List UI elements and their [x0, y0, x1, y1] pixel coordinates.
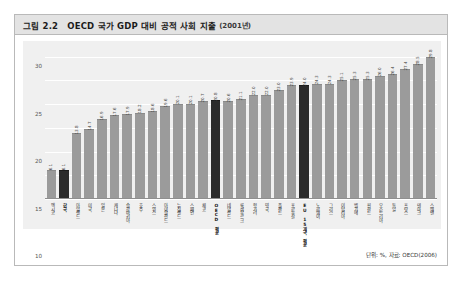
bar-value-label: 16.9	[100, 111, 104, 120]
x-label-column: 캐나다	[108, 203, 121, 227]
x-axis-category-label: EU 15개국 평균	[302, 203, 306, 246]
x-axis-labels: 멕시코한국아일랜드미국일본캐나다슬로바키아호주스위스아이슬란드뉴질랜드스페인체코…	[45, 203, 437, 227]
bar	[186, 104, 196, 199]
bar-value-label: 14.7	[87, 122, 91, 131]
bar-column: 14.7	[83, 47, 96, 199]
x-axis-category-label: 한국	[62, 203, 66, 210]
bar	[287, 85, 297, 199]
y-axis-tick: 15	[35, 206, 42, 212]
bar	[375, 76, 385, 200]
x-label-column: 룩셈부르크	[235, 203, 248, 227]
bar-value-label: 6.1	[49, 164, 53, 171]
bar	[413, 64, 423, 199]
bar-column: 17.6	[108, 47, 121, 199]
bar	[160, 106, 170, 199]
x-label-column: 폴란드	[273, 203, 286, 227]
bar	[350, 79, 360, 199]
x-label-column: 노르웨이	[310, 203, 323, 227]
bar	[400, 69, 410, 199]
bar-column: 21.1	[235, 47, 248, 199]
bar-value-label: 25.1	[340, 72, 344, 81]
bar-column: 20.6	[222, 47, 235, 199]
bar-value-label: 21.1	[239, 91, 243, 100]
x-axis-category-label: 폴란드	[277, 203, 281, 214]
figure-number: 그림 2.2	[23, 19, 58, 31]
bar	[122, 114, 132, 199]
bar	[211, 100, 221, 199]
x-axis-category-label: 슬로바키아	[125, 203, 129, 222]
bar-value-label: 23.9	[289, 78, 293, 87]
bar-column: 6.1	[45, 47, 58, 199]
x-label-column: 미국	[83, 203, 96, 227]
x-axis-category-label: 그리스	[327, 203, 331, 214]
x-axis-category-label: 아이슬란드	[163, 203, 167, 222]
bar-value-label: 17.9	[125, 106, 129, 115]
x-axis-category-label: 아일랜드	[74, 203, 78, 218]
source-note: 단위: %, 자료: OECD(2006)	[366, 251, 437, 259]
bar-value-label: 27.4	[403, 61, 407, 70]
bar-column: 26.0	[374, 47, 387, 199]
page-title: OECD 국가 GDP 대비 공적 사회 지출	[67, 19, 216, 31]
bar-value-label: 25.3	[365, 71, 369, 80]
x-axis-category-label: 벨기에	[352, 203, 356, 214]
bar	[312, 84, 322, 199]
bar-value-label: 29.8	[428, 50, 432, 59]
bar	[388, 74, 398, 199]
figure-container: 그림 2.2 OECD 국가 GDP 대비 공적 사회 지출 (2001년) 0…	[14, 14, 448, 266]
x-axis-category-label: 스페인	[188, 203, 192, 214]
bar-value-label: 13.8	[75, 126, 79, 135]
bar-value-label: 23.0	[277, 82, 281, 91]
x-label-column: 헝가리	[247, 203, 260, 227]
bar-value-label: 18.6	[150, 103, 154, 112]
x-axis-category-label: 이탈리아	[340, 203, 344, 218]
x-label-column: 멕시코	[45, 203, 58, 227]
x-axis-category-label: 덴마크	[416, 203, 420, 214]
bar-value-label: 17.6	[112, 108, 116, 117]
bar-column: 19.6	[159, 47, 172, 199]
bar	[173, 104, 183, 199]
bar-series: 6.16.113.814.716.917.617.918.218.619.620…	[45, 47, 437, 199]
bar-column: 25.3	[361, 47, 374, 199]
x-label-column: 프랑스	[399, 203, 412, 227]
x-axis-category-label: 뉴질랜드	[176, 203, 180, 218]
bar-value-label: 25.3	[353, 71, 357, 80]
bar-column: 18.6	[146, 47, 159, 199]
x-axis-category-label: 체코	[201, 203, 205, 210]
x-axis-category-label: 프랑스	[403, 203, 407, 214]
x-label-column: OECD 평균	[209, 203, 222, 227]
bar	[198, 101, 208, 199]
x-label-column: 독일	[386, 203, 399, 227]
x-axis-category-label: 일본	[100, 203, 104, 210]
x-axis-line	[45, 198, 437, 199]
x-label-column: 스페인	[184, 203, 197, 227]
bar	[84, 129, 94, 199]
bar-column: 29.8	[424, 47, 437, 199]
bar-column: 20.7	[197, 47, 210, 199]
bar-column: 23.0	[273, 47, 286, 199]
x-label-column: 스위스	[146, 203, 159, 227]
x-axis-category-label: OECD 평균	[213, 203, 217, 234]
x-axis-category-label: 헝가리	[251, 203, 255, 214]
figure-title-bar: 그림 2.2 OECD 국가 GDP 대비 공적 사회 지출 (2001년)	[15, 15, 447, 35]
bar	[299, 85, 309, 199]
bar	[426, 57, 436, 199]
x-label-column: 오스트리아	[374, 203, 387, 227]
x-axis-category-label: 핀란드	[365, 203, 369, 214]
x-label-column: 체코	[197, 203, 210, 227]
bar-value-label: 18.2	[138, 105, 142, 114]
gridline: 0	[45, 199, 437, 200]
bar-value-label: 20.1	[188, 96, 192, 105]
bar-column: 24.0	[298, 47, 311, 199]
x-label-column: 이탈리아	[336, 203, 349, 227]
x-label-column: 한국	[58, 203, 71, 227]
x-label-column: 포르투갈	[285, 203, 298, 227]
bar	[223, 101, 233, 199]
bar-value-label: 6.1	[62, 164, 66, 171]
bar-column: 22.0	[247, 47, 260, 199]
bar-column: 16.9	[96, 47, 109, 199]
x-label-column: 슬로바키아	[121, 203, 134, 227]
x-axis-category-label: 스웨덴	[428, 203, 432, 214]
x-axis-category-label: 캐나다	[112, 203, 116, 214]
x-label-column: 아이슬란드	[159, 203, 172, 227]
bar-value-label: 19.6	[163, 98, 167, 107]
